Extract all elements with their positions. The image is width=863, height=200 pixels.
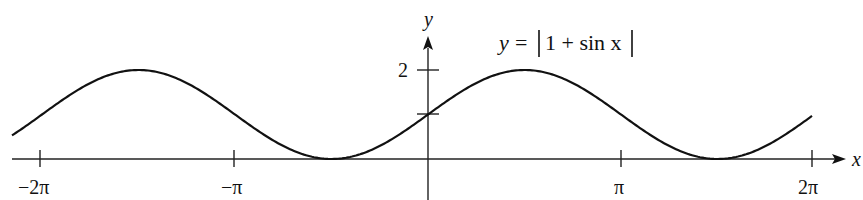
equation-label: y = 1 + sin x bbox=[497, 30, 632, 57]
equation-equals: = bbox=[515, 30, 527, 55]
curve-abs-one-plus-sin bbox=[12, 70, 812, 159]
y-tick-label-2: 2 bbox=[398, 59, 408, 81]
x-tick-label-pi: π bbox=[614, 176, 624, 198]
equation-lhs: y bbox=[497, 30, 509, 55]
x-tick-label-neg2pi: −2π bbox=[18, 176, 49, 198]
x-tick-label-negpi: −π bbox=[221, 176, 242, 198]
equation-body: 1 + sin x bbox=[545, 30, 622, 55]
x-tick-label-2pi: 2π bbox=[798, 176, 818, 198]
y-axis-arrow-icon bbox=[423, 36, 433, 50]
chart-canvas: −2π −π π 2π 2 x y y = 1 + sin x bbox=[0, 0, 863, 200]
x-axis-label: x bbox=[851, 148, 861, 170]
y-axis-label: y bbox=[422, 8, 433, 31]
